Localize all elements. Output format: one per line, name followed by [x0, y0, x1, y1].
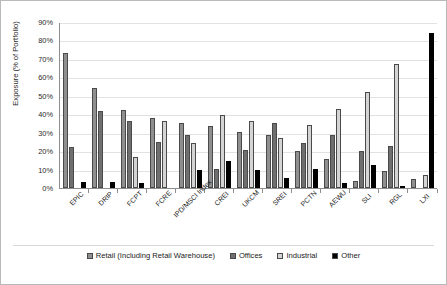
bar-group: [292, 23, 321, 188]
x-axis-tick-label: RGL: [388, 191, 403, 206]
bar-group: [118, 23, 147, 188]
bar-group: [379, 23, 408, 188]
bar: [371, 165, 376, 188]
y-axis-tick-label: 0%: [42, 185, 53, 193]
bar: [214, 169, 219, 188]
bar: [365, 92, 370, 188]
legend-item[interactable]: Retail (Including Retail Warehouse): [87, 251, 215, 260]
y-axis-tick-label: 20%: [38, 148, 53, 156]
x-axis-label-cell: EPIC: [59, 193, 88, 245]
bar-group: [89, 23, 118, 188]
bar: [69, 147, 74, 188]
legend-item[interactable]: Offices: [230, 251, 263, 260]
x-axis-label-cell: SREI: [263, 193, 292, 245]
y-axis-tick-label: 50%: [38, 93, 53, 101]
y-axis-tick-label: 80%: [38, 37, 53, 45]
bar: [278, 138, 283, 188]
legend-label: Other: [341, 251, 360, 260]
legend-label: Retail (Including Retail Warehouse): [96, 251, 215, 260]
bar: [394, 64, 399, 189]
x-axis-label-cell: FCRE: [146, 193, 175, 245]
x-axis-tick-label: LXI: [419, 192, 431, 204]
x-axis-tick-label: PCTN: [299, 189, 317, 207]
bar-group: [263, 23, 292, 188]
x-axis-labels: EPICDRIPFCPTFCREIPD/MSCI IndexCREIUKCMSR…: [59, 193, 437, 245]
bar: [185, 135, 190, 188]
x-axis-tick-label: FCRE: [154, 189, 172, 207]
bar: [191, 143, 196, 188]
bar: [266, 135, 271, 188]
bar-group: [350, 23, 379, 188]
x-axis-label-cell: LXI: [408, 193, 437, 245]
bar: [243, 150, 248, 188]
y-axis-tick-label: 70%: [38, 56, 53, 64]
legend-label: Industrial: [286, 251, 317, 260]
bar: [156, 142, 161, 188]
bar-group: [60, 23, 89, 188]
x-axis-tick-label: EPIC: [68, 190, 85, 207]
bar: [220, 115, 225, 188]
x-axis-label-cell: CREI: [204, 193, 233, 245]
legend-item[interactable]: Industrial: [277, 251, 317, 260]
y-axis-tick-label: 30%: [38, 130, 53, 138]
bar-group: [234, 23, 263, 188]
bar: [423, 175, 428, 188]
bar: [110, 182, 115, 188]
bar: [295, 151, 300, 188]
bar: [353, 181, 358, 188]
y-axis-ticks: 0%10%20%30%40%50%60%70%80%90%: [1, 1, 57, 191]
bar: [237, 132, 242, 188]
bar: [92, 88, 97, 188]
bar-group: [321, 23, 350, 188]
bar: [301, 143, 306, 188]
bar: [382, 171, 387, 188]
bar: [127, 121, 132, 188]
y-axis-tick-label: 10%: [38, 167, 53, 175]
bar: [400, 186, 405, 188]
bar-group: [176, 23, 205, 188]
bar: [98, 111, 103, 188]
x-axis-tick-label: SREI: [271, 190, 288, 207]
x-axis-label-cell: FCPT: [117, 193, 146, 245]
bar: [324, 159, 329, 188]
x-axis-label-cell: DRIP: [88, 193, 117, 245]
x-axis-label-cell: AEWU: [321, 193, 350, 245]
bar-group: [408, 23, 437, 188]
y-axis-tick-label: 90%: [38, 19, 53, 27]
y-axis-tick-label: 40%: [38, 111, 53, 119]
y-axis-title: Exposure (% of Portfolio): [11, 0, 20, 134]
x-axis-tick-label: CREI: [213, 190, 230, 207]
other-swatch: [332, 253, 338, 259]
bar: [162, 121, 167, 188]
x-axis-tick-label: DRIP: [97, 190, 114, 207]
bar: [226, 161, 231, 188]
bar: [284, 178, 289, 188]
offices-swatch: [230, 253, 236, 259]
bar: [307, 125, 312, 188]
retail-swatch: [87, 253, 93, 259]
y-axis-tick-label: 60%: [38, 74, 53, 82]
bar: [336, 109, 341, 188]
x-axis-label-cell: IPD/MSCI Index: [175, 193, 204, 245]
bar: [255, 170, 260, 188]
legend-item[interactable]: Other: [332, 251, 360, 260]
bar: [359, 151, 364, 188]
bar: [313, 169, 318, 188]
bar: [411, 179, 416, 188]
bar: [63, 53, 68, 188]
bar-groups: [60, 23, 437, 188]
industrial-swatch: [277, 253, 283, 259]
x-axis-label-cell: RGL: [379, 193, 408, 245]
x-axis-label-cell: SLI: [350, 193, 379, 245]
legend-label: Offices: [239, 251, 263, 260]
bar: [249, 121, 254, 188]
chart-legend: Retail (Including Retail Warehouse)Offic…: [1, 251, 446, 260]
bar: [81, 182, 86, 188]
bar: [272, 123, 277, 188]
x-axis-tick-label: FCPT: [125, 190, 143, 208]
bar: [139, 183, 144, 188]
chart-frame: 0%10%20%30%40%50%60%70%80%90% Exposure (…: [0, 0, 447, 285]
bar-group: [205, 23, 234, 188]
plot-area: [59, 23, 437, 189]
bar: [150, 118, 155, 188]
